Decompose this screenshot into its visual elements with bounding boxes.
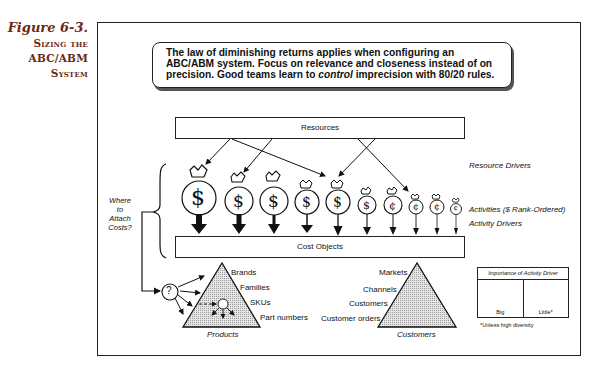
resource-drivers-label: Resource Drivers bbox=[469, 161, 531, 170]
activity-bags bbox=[182, 165, 462, 236]
where-word-2: to bbox=[100, 205, 140, 214]
products-level-families: Families bbox=[240, 283, 270, 292]
legend-big-label: Big bbox=[478, 309, 523, 315]
activity-bag-9 bbox=[430, 194, 444, 235]
customers-title: Customers bbox=[397, 330, 436, 339]
bag-symbol-5: $ bbox=[333, 194, 342, 210]
products-level-skus: SKUs bbox=[250, 298, 270, 307]
bag-symbol-3: $ bbox=[268, 191, 279, 211]
customers-level-markets: Markets bbox=[379, 268, 407, 277]
question-mark: ? bbox=[166, 285, 172, 296]
legend-cell-little: Little* bbox=[523, 280, 569, 318]
where-connector bbox=[142, 212, 160, 291]
products-level-part-numbers: Part numbers bbox=[260, 313, 308, 322]
where-to-attach-label: Where to Attach Costs? bbox=[100, 196, 140, 232]
products-level-brands: Brands bbox=[231, 268, 256, 277]
legend-little-label: Little* bbox=[524, 309, 569, 315]
customers-level-customers: Customers bbox=[349, 299, 388, 308]
where-word-3: Attach bbox=[100, 214, 140, 223]
legend-header: Importance of Activity Driver bbox=[478, 268, 568, 280]
bag-symbol-4: $ bbox=[302, 194, 311, 210]
legend-box: Importance of Activity Driver Big Little… bbox=[477, 267, 569, 318]
legend-footnote: *Unless high diversity bbox=[480, 322, 533, 328]
where-word-1: Where bbox=[100, 196, 140, 205]
bag-symbol-7: ¢ bbox=[389, 199, 396, 212]
bag-symbol-2: $ bbox=[233, 191, 244, 211]
where-word-4: Costs? bbox=[100, 223, 140, 232]
bag-symbol-9: ¢ bbox=[434, 202, 440, 212]
brace bbox=[153, 164, 166, 258]
customers-level-channels: Channels bbox=[363, 285, 397, 294]
products-title: Products bbox=[207, 330, 239, 339]
bag-symbol-1: $ bbox=[191, 185, 205, 210]
legend-cell-big: Big bbox=[478, 280, 523, 318]
resources-box: Resources bbox=[175, 117, 465, 139]
customers-level-customer-orders: Customer orders bbox=[321, 314, 381, 323]
cost-objects-box: Cost Objects bbox=[175, 236, 465, 258]
bag-symbol-10: ¢ bbox=[454, 204, 458, 212]
bag-symbol-8: ¢ bbox=[413, 202, 419, 212]
activity-drivers-label: Activity Drivers bbox=[469, 219, 522, 228]
bag-symbol-6: $ bbox=[363, 199, 370, 212]
activity-bag-8 bbox=[409, 194, 423, 235]
activities-label: Activities ($ Rank-Ordered) bbox=[469, 205, 565, 214]
